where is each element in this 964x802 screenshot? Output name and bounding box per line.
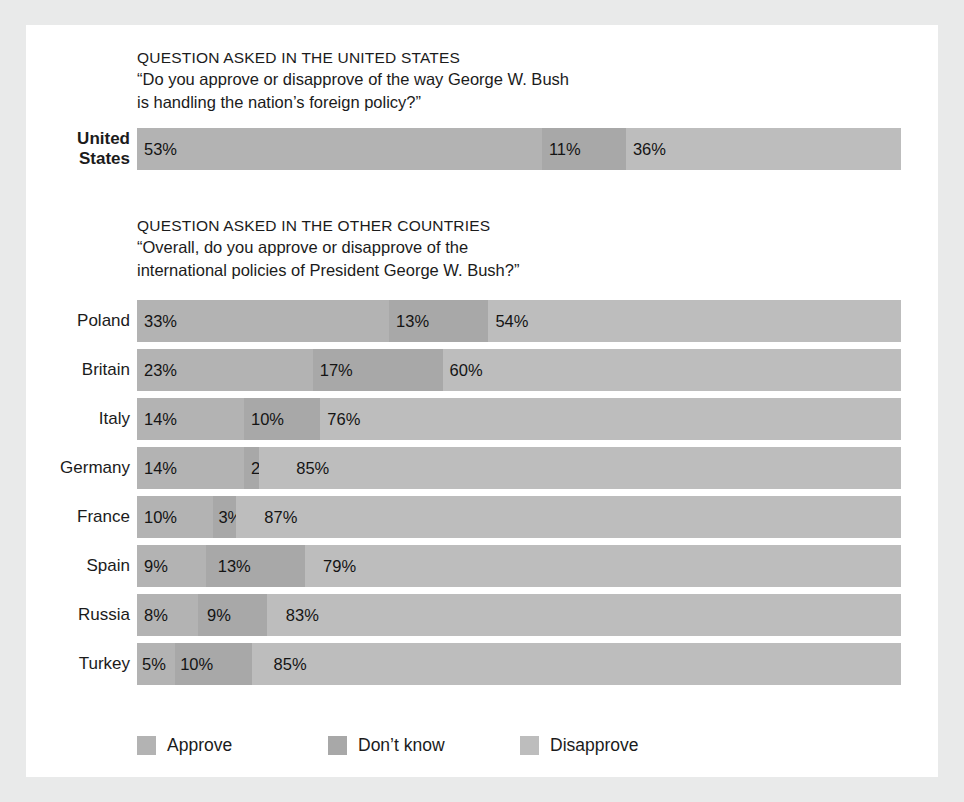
bar-value-approve: 33% — [144, 312, 177, 331]
bar-segment-disapprove: 79% — [305, 545, 901, 587]
bar-value-disapprove: 83% — [286, 606, 319, 625]
bar-segment-disapprove: 36% — [626, 128, 901, 170]
bar-value-disapprove: 85% — [274, 655, 307, 674]
bar-value-dontknow: 9% — [207, 606, 231, 625]
legend-item-approve: Approve — [137, 735, 328, 756]
stacked-bar-poland: 33% 13% 54% — [137, 300, 901, 342]
chart-canvas: QUESTION ASKED IN THE UNITED STATES “Do … — [26, 25, 938, 777]
bar-segment-disapprove: 85% — [252, 643, 901, 685]
row-label-spain: Spain — [26, 545, 130, 587]
bar-value-disapprove: 87% — [264, 508, 297, 527]
bar-value-disapprove: 60% — [450, 361, 483, 380]
bar-segment-approve: 10% — [137, 496, 213, 538]
bar-segment-approve: 8% — [137, 594, 198, 636]
chart-row-britain: Britain 23% 17% 60% — [26, 349, 912, 391]
legend-item-disapprove: Disapprove — [520, 735, 639, 756]
bar-value-disapprove: 85% — [296, 459, 329, 478]
bar-value-dontknow: 10% — [251, 410, 284, 429]
bar-value-approve: 5% — [142, 655, 166, 674]
legend-label-disapprove: Disapprove — [550, 735, 639, 756]
bar-value-disapprove: 76% — [327, 410, 360, 429]
bar-segment-dontknow: 13% — [389, 300, 488, 342]
bar-segment-dontknow: 9% — [198, 594, 267, 636]
chart-row-russia: Russia 8% 9% 83% — [26, 594, 912, 636]
stacked-bar-spain: 9% 13% 79% — [137, 545, 901, 587]
bar-value-disapprove: 79% — [323, 557, 356, 576]
bar-value-dontknow: 10% — [180, 655, 213, 674]
bar-segment-disapprove: 83% — [267, 594, 901, 636]
question-text-us-line1: “Do you approve or disapprove of the way… — [137, 68, 827, 91]
legend-label-dontknow: Don’t know — [358, 735, 445, 756]
chart-row-italy: Italy 14% 10% 76% — [26, 398, 912, 440]
question-text-us-line2: is handling the nation’s foreign policy?… — [137, 91, 827, 114]
bar-value-dontknow: 11% — [549, 140, 581, 159]
row-label-united-states: United States — [26, 128, 130, 170]
question-text-intl-line2: international policies of President Geor… — [137, 259, 827, 282]
bar-segment-disapprove: 54% — [488, 300, 901, 342]
row-label-britain: Britain — [26, 349, 130, 391]
row-label-line2: States — [79, 149, 130, 169]
chart-row-poland: Poland 33% 13% 54% — [26, 300, 912, 342]
chart-legend: Approve Don’t know Disapprove — [137, 730, 639, 760]
stacked-bar-britain: 23% 17% 60% — [137, 349, 901, 391]
bar-segment-dontknow: 13% — [206, 545, 305, 587]
row-label-turkey: Turkey — [26, 643, 130, 685]
bar-segment-dontknow: 17% — [313, 349, 443, 391]
bar-value-approve: 14% — [144, 459, 177, 478]
bar-segment-disapprove: 76% — [320, 398, 901, 440]
bar-value-approve: 53% — [144, 140, 177, 159]
bar-value-approve: 14% — [144, 410, 177, 429]
bar-segment-approve: 9% — [137, 545, 206, 587]
bar-segment-approve: 14% — [137, 447, 244, 489]
question-text-intl-line1: “Overall, do you approve or disapprove o… — [137, 236, 827, 259]
bar-value-disapprove: 54% — [495, 312, 528, 331]
chart-row-turkey: Turkey 5% 10% 85% — [26, 643, 912, 685]
bar-value-dontknow: 13% — [218, 557, 251, 576]
bar-segment-approve: 5% — [137, 643, 175, 685]
row-label-poland: Poland — [26, 300, 130, 342]
bar-value-dontknow: 13% — [396, 312, 429, 331]
bar-segment-approve: 53% — [137, 128, 542, 170]
bar-segment-approve: 23% — [137, 349, 313, 391]
stacked-bar-russia: 8% 9% 83% — [137, 594, 901, 636]
bar-value-approve: 23% — [144, 361, 177, 380]
bar-segment-dontknow: 11% — [542, 128, 626, 170]
stacked-bar-france: 10% 3% 87% — [137, 496, 901, 538]
bar-segment-approve: 33% — [137, 300, 389, 342]
bar-segment-approve: 14% — [137, 398, 244, 440]
row-label-germany: Germany — [26, 447, 130, 489]
figure-frame: QUESTION ASKED IN THE UNITED STATES “Do … — [0, 0, 964, 802]
bar-segment-disapprove: 87% — [236, 496, 901, 538]
row-label-france: France — [26, 496, 130, 538]
chart-row-germany: Germany 14% 2% 85% — [26, 447, 912, 489]
chart-row-france: France 10% 3% 87% — [26, 496, 912, 538]
row-label-line1: United — [77, 129, 130, 149]
bar-value-dontknow: 17% — [320, 361, 353, 380]
row-label-russia: Russia — [26, 594, 130, 636]
legend-swatch-approve-icon — [137, 736, 156, 755]
bar-value-disapprove: 36% — [633, 140, 666, 159]
stacked-bar-germany: 14% 2% 85% — [137, 447, 901, 489]
question-block-united-states: QUESTION ASKED IN THE UNITED STATES “Do … — [137, 47, 827, 113]
bar-segment-dontknow: 10% — [244, 398, 320, 440]
bar-value-approve: 10% — [144, 508, 177, 527]
bar-segment-dontknow: 3% — [213, 496, 236, 538]
bar-value-approve: 9% — [144, 557, 168, 576]
bar-segment-disapprove: 85% — [259, 447, 901, 489]
legend-label-approve: Approve — [167, 735, 232, 756]
chart-row-united-states: United States 53% 11% 36% — [26, 128, 912, 170]
chart-row-spain: Spain 9% 13% 79% — [26, 545, 912, 587]
bar-value-approve: 8% — [144, 606, 168, 625]
stacked-bar-turkey: 5% 10% 85% — [137, 643, 901, 685]
legend-swatch-dontknow-icon — [328, 736, 347, 755]
row-label-italy: Italy — [26, 398, 130, 440]
bar-segment-dontknow: 2% — [244, 447, 259, 489]
stacked-bar-italy: 14% 10% 76% — [137, 398, 901, 440]
legend-item-dontknow: Don’t know — [328, 735, 520, 756]
question-heading-us: QUESTION ASKED IN THE UNITED STATES — [137, 47, 827, 68]
stacked-bar-united-states: 53% 11% 36% — [137, 128, 901, 170]
question-heading-intl: QUESTION ASKED IN THE OTHER COUNTRIES — [137, 215, 827, 236]
bar-segment-disapprove: 60% — [443, 349, 901, 391]
question-block-other-countries: QUESTION ASKED IN THE OTHER COUNTRIES “O… — [137, 215, 827, 281]
bar-segment-dontknow: 10% — [175, 643, 251, 685]
